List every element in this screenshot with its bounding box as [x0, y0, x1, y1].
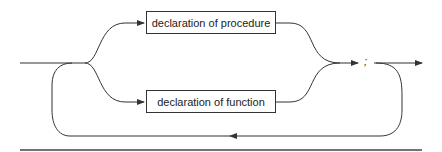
node-label: declaration of procedure — [152, 17, 271, 29]
branch-to-function — [85, 63, 144, 102]
branch-to-procedure — [85, 23, 144, 63]
procedure-to-merge — [276, 23, 340, 63]
node-label: declaration of function — [157, 96, 265, 108]
node-declaration-of-function: declaration of function — [146, 90, 276, 113]
function-to-merge — [276, 63, 340, 102]
node-declaration-of-procedure: declaration of procedure — [146, 11, 276, 34]
node-semicolon: ; — [364, 55, 367, 67]
